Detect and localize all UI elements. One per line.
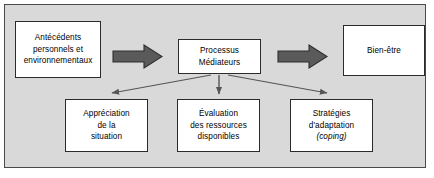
node-evaluation-line-1: Évaluation: [199, 108, 238, 119]
node-processus-line-1: Processus: [200, 45, 239, 56]
node-strategies-line-3: (coping): [316, 131, 346, 142]
node-evaluation-line-3: disponibles: [198, 131, 240, 142]
node-antecedents-line-1: Antécédents: [35, 32, 81, 43]
node-strategies-line-2: d'adaptation: [309, 120, 354, 131]
node-antecedents: Antécédents personnels et environnementa…: [15, 21, 101, 78]
node-bienetre: Bien-être: [343, 25, 425, 76]
node-antecedents-line-3: environnementaux: [24, 55, 93, 66]
node-bienetre-line-1: Bien-être: [367, 45, 401, 56]
node-processus-line-2: Médiateurs: [199, 57, 240, 68]
diagram-root: Antécédents personnels et environnementa…: [0, 0, 434, 178]
node-evaluation-line-2: des ressources: [190, 120, 247, 131]
node-processus: Processus Médiateurs: [178, 39, 261, 74]
node-appreciation-line-2: de la: [97, 120, 115, 131]
node-antecedents-line-2: personnels et: [33, 44, 83, 55]
node-appreciation-line-1: Appréciation: [83, 108, 130, 119]
node-strategies: Stratégies d'adaptation (coping): [290, 99, 373, 152]
node-strategies-line-1: Stratégies: [313, 108, 351, 119]
node-appreciation: Appréciation de la situation: [65, 99, 148, 152]
node-evaluation: Évaluation des ressources disponibles: [177, 99, 260, 152]
node-appreciation-line-3: situation: [91, 131, 122, 142]
